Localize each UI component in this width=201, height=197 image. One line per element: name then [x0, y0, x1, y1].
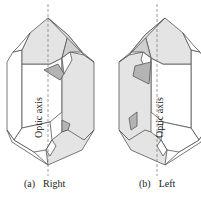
caption-b: (b)Left: [139, 178, 175, 189]
caption-b-tag: (b): [139, 178, 151, 189]
optic-axis-label-a: Optic axis: [33, 97, 44, 138]
caption-a: (a)Right: [24, 178, 65, 189]
pyramid-face-main: [145, 18, 191, 64]
optic-axis-label-b: Optic axis: [154, 97, 165, 138]
caption-a-label: Right: [43, 178, 65, 189]
pyramid-face-main: [22, 18, 68, 64]
caption-b-label: Left: [159, 178, 176, 189]
crystal-diagram: Optic axis Optic axis: [0, 0, 201, 197]
prism-face-left: [7, 50, 22, 140]
crystal-right: Optic axis: [7, 4, 94, 176]
crystal-left: [119, 4, 201, 176]
prism-face-right: [191, 50, 201, 140]
caption-a-tag: (a): [24, 178, 35, 189]
